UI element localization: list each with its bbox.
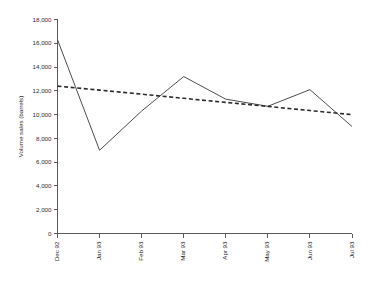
- y-axis-tick-label: 14,000: [33, 63, 52, 70]
- y-axis-tick-labels: 18,00016,00014,00012,00010,0008,0006,000…: [33, 16, 52, 237]
- y-axis-tick-marks: [54, 20, 58, 234]
- chart-container: 18,00016,00014,00012,00010,0008,0006,000…: [0, 0, 369, 287]
- y-axis-title: Volume sales (barrels): [17, 96, 24, 158]
- y-axis-tick-label: 10,000: [33, 111, 52, 118]
- y-axis: 18,00016,00014,00012,00010,0008,0006,000…: [33, 16, 58, 237]
- volume-sales-line-chart: 18,00016,00014,00012,00010,0008,0006,000…: [0, 0, 369, 287]
- y-axis-tick-label: 18,000: [33, 16, 52, 23]
- x-axis-tick-labels: Dec 92Jan 93Feb 93Mar 93Apr 93May 93Jun …: [53, 241, 355, 262]
- x-axis-tick-label: Mar 93: [179, 241, 186, 261]
- x-axis-tick-label: Jul 93: [348, 241, 355, 258]
- y-axis-tick-label: 4,000: [36, 182, 52, 189]
- x-axis-tick-label: Dec 92: [53, 241, 60, 261]
- y-axis-tick-label: 16,000: [33, 39, 52, 46]
- y-axis-tick-label: 0: [48, 230, 52, 237]
- y-axis-tick-label: 8,000: [36, 135, 52, 142]
- x-axis-tick-label: Apr 93: [221, 241, 228, 260]
- x-axis-tick-label: May 93: [263, 241, 270, 262]
- y-axis-tick-label: 12,000: [33, 87, 52, 94]
- x-axis-tick-label: Feb 93: [137, 241, 144, 261]
- x-axis: Dec 92Jan 93Feb 93Mar 93Apr 93May 93Jun …: [53, 234, 355, 262]
- x-axis-tick-label: Jan 93: [95, 241, 102, 260]
- y-axis-tick-label: 2,000: [36, 206, 52, 213]
- x-axis-tick-label: Jun 93: [306, 241, 313, 260]
- x-axis-tick-marks: [58, 234, 353, 238]
- y-axis-tick-label: 6,000: [36, 158, 52, 165]
- plot-area: [58, 40, 353, 151]
- series-line-volume-sales: [58, 40, 353, 151]
